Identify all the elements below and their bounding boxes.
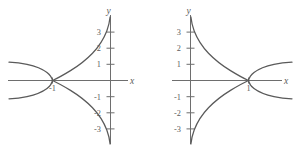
curve-lower-left-branch: [9, 81, 53, 99]
plot-right-canvas: y x 3 2 1 -1 -2 -3 1: [152, 0, 305, 165]
y-tick-label-neg2: -2: [174, 109, 181, 118]
curve-lower-asymptote-branch: [191, 81, 249, 145]
plot-left: y x 3 2 1 -1 -2 -3 -1: [0, 0, 152, 165]
x-tick-label-1: 1: [246, 84, 250, 93]
plot-left-canvas: y x 3 2 1 -1 -2 -3 -1: [0, 0, 152, 165]
curve-upper-asymptote-branch: [191, 17, 249, 81]
y-tick-label-2: 2: [177, 44, 181, 53]
y-tick-label-1: 1: [97, 60, 101, 69]
y-tick-label-2: 2: [97, 44, 101, 53]
y-tick-label-neg3: -3: [94, 125, 101, 134]
y-tick-label-neg1: -1: [94, 93, 101, 102]
y-tick-label-1: 1: [177, 60, 181, 69]
curve-upper-left-branch: [9, 62, 53, 80]
y-axis-label: y: [186, 6, 192, 16]
y-tick-label-neg3: -3: [174, 125, 181, 134]
x-tick-label-neg1: -1: [49, 84, 56, 93]
y-tick-label-neg1: -1: [174, 93, 181, 102]
plot-right: y x 3 2 1 -1 -2 -3 1: [152, 0, 304, 165]
y-axis-label: y: [106, 6, 112, 16]
y-tick-label-neg2: -2: [94, 109, 101, 118]
curve-upper-asymptote-branch: [53, 17, 111, 81]
curve-lower-asymptote-branch: [53, 81, 111, 145]
y-tick-label-3: 3: [97, 28, 101, 37]
x-axis-label: x: [283, 76, 289, 86]
figure-two-plots: y x 3 2 1 -1 -2 -3 -1: [0, 0, 305, 165]
y-tick-label-3: 3: [177, 28, 181, 37]
x-axis-label: x: [129, 76, 135, 86]
